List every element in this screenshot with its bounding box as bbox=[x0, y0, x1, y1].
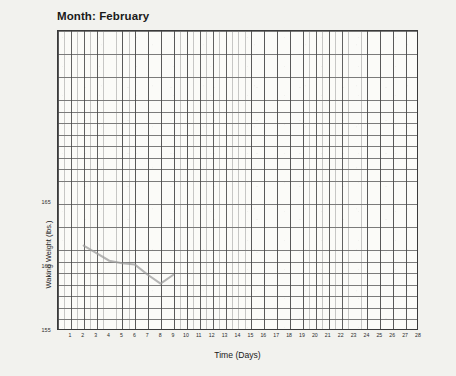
y-axis-title: Waking Weight (lbs.) bbox=[44, 175, 53, 335]
x-axis-tick-9: 9 bbox=[172, 332, 175, 338]
x-axis-tick-10: 10 bbox=[183, 332, 189, 338]
x-axis-tick-27: 27 bbox=[402, 332, 408, 338]
x-axis-tick-7: 7 bbox=[146, 332, 149, 338]
x-axis-tick-18: 18 bbox=[286, 332, 292, 338]
x-axis-tick-1: 1 bbox=[68, 332, 71, 338]
x-axis-tick-23: 23 bbox=[351, 332, 357, 338]
x-axis-tick-13: 13 bbox=[222, 332, 228, 338]
x-axis-tick-17: 17 bbox=[273, 332, 279, 338]
x-axis-tick-25: 25 bbox=[376, 332, 382, 338]
x-axis-tick-26: 26 bbox=[389, 332, 395, 338]
x-axis-tick-11: 11 bbox=[196, 332, 201, 338]
x-axis-tick-6: 6 bbox=[133, 332, 136, 338]
x-axis-tick-16: 16 bbox=[260, 332, 266, 338]
x-axis-tick-5: 5 bbox=[120, 332, 123, 338]
plot-area bbox=[57, 30, 418, 330]
x-axis-tick-22: 22 bbox=[338, 332, 344, 338]
x-axis-tick-15: 15 bbox=[248, 332, 254, 338]
x-axis-tick-14: 14 bbox=[235, 332, 241, 338]
chart-title: Month: February bbox=[57, 10, 149, 22]
paper-texture bbox=[58, 31, 417, 329]
x-axis-tick-8: 8 bbox=[159, 332, 162, 338]
grid-vertical-minor-lines bbox=[58, 31, 417, 329]
x-axis-tick-3: 3 bbox=[94, 332, 97, 338]
x-axis-tick-28: 28 bbox=[415, 332, 421, 338]
x-axis-tick-24: 24 bbox=[364, 332, 370, 338]
x-axis-tick-labels: 1234567891011121314151617181920212223242… bbox=[57, 332, 418, 344]
chart-page: Month: February 155160165 12345678910111… bbox=[0, 0, 456, 376]
x-axis-tick-2: 2 bbox=[81, 332, 84, 338]
x-axis-title: Time (Days) bbox=[57, 350, 418, 360]
grid-vertical-day-lines bbox=[58, 31, 417, 329]
grid-horizontal-lines bbox=[58, 31, 417, 329]
x-axis-tick-12: 12 bbox=[209, 332, 215, 338]
x-axis-tick-20: 20 bbox=[312, 332, 318, 338]
x-axis-tick-21: 21 bbox=[325, 332, 331, 338]
x-axis-tick-4: 4 bbox=[107, 332, 110, 338]
data-series-line bbox=[58, 31, 417, 329]
x-axis-tick-19: 19 bbox=[299, 332, 305, 338]
y-axis-title-container: Waking Weight (lbs.) bbox=[26, 100, 42, 260]
